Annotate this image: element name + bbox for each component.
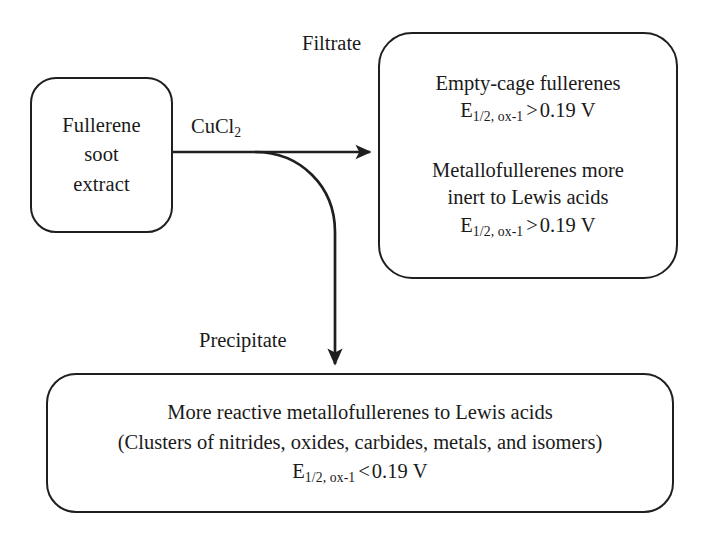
precipitate-potential: E1/2, ox-1<0.19 V	[292, 458, 427, 488]
filtrate-group-metallofullerenes: Metallofullerenes more inert to Lewis ac…	[432, 157, 624, 242]
reagent-subscript: 2	[234, 125, 241, 140]
filtrate-group-1-text: Empty-cage fullerenes	[436, 70, 621, 97]
filtrate-group-empty-cage: Empty-cage fullerenes E1/2, ox-1>0.19 V	[436, 70, 621, 127]
filtrate-group-1-potential: E1/2, ox-1>0.19 V	[460, 97, 595, 127]
potential-unit: V	[413, 460, 428, 482]
node-fullerene-soot-extract: Fullerene soot extract	[30, 77, 173, 233]
edge-label-filtrate: Filtrate	[302, 33, 361, 54]
potential-unit: V	[581, 214, 596, 236]
potential-value: 0.19	[540, 99, 576, 121]
potential-relation: >	[526, 214, 538, 236]
reagent-formula: CuCl	[191, 115, 234, 137]
source-line-1: Fullerene	[62, 111, 140, 140]
edge-label-precipitate: Precipitate	[199, 330, 287, 351]
filtrate-group-2-line-2: inert to Lewis acids	[447, 184, 608, 211]
potential-subscript: 1/2, ox-1	[473, 109, 523, 124]
source-line-3: extract	[73, 170, 129, 199]
potential-relation: >	[526, 99, 538, 121]
precipitate-line-2: (Clusters of nitrides, oxides, carbides,…	[118, 428, 603, 458]
source-line-2: soot	[84, 140, 119, 169]
filtrate-group-2-potential: E1/2, ox-1>0.19 V	[460, 212, 595, 242]
filtrate-group-2-line-1: Metallofullerenes more	[432, 157, 624, 184]
potential-subscript: 1/2, ox-1	[305, 470, 355, 485]
potential-subscript: 1/2, ox-1	[473, 224, 523, 239]
node-precipitate-products: More reactive metallofullerenes to Lewis…	[46, 373, 674, 513]
node-filtrate-products: Empty-cage fullerenes E1/2, ox-1>0.19 V …	[378, 32, 678, 279]
potential-value: 0.19	[372, 460, 408, 482]
potential-symbol: E	[460, 214, 473, 236]
precipitate-line-1: More reactive metallofullerenes to Lewis…	[167, 398, 552, 428]
potential-symbol: E	[460, 99, 473, 121]
edge-label-reagent: CuCl2	[191, 116, 241, 140]
potential-unit: V	[581, 99, 596, 121]
potential-value: 0.19	[540, 214, 576, 236]
potential-symbol: E	[292, 460, 305, 482]
flowchart-diagram: CuCl2 Filtrate Precipitate Fullerene soo…	[0, 0, 704, 544]
potential-relation: <	[358, 460, 370, 482]
